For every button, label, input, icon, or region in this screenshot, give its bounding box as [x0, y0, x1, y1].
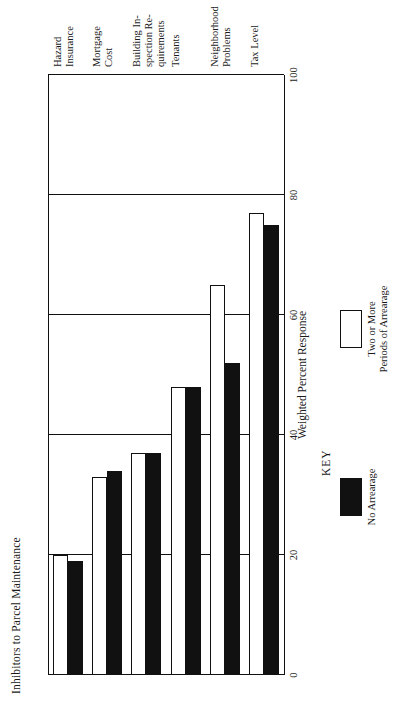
bar — [171, 387, 186, 675]
value-axis-title: Weighted Percent Response — [296, 75, 308, 675]
rotated-figure-stage: Inhibitors to Parcel Maintenance 0204060… — [0, 0, 398, 722]
bar — [107, 471, 122, 675]
chart-legend: KEY No Arrearage Two or More Periods of … — [318, 232, 390, 652]
category-label: Mortgage Cost — [91, 0, 115, 67]
category-label: Hazard Insurance — [52, 0, 76, 67]
category-label: Tax Level — [249, 0, 261, 67]
gridline-100 — [48, 74, 284, 75]
gridline-80 — [48, 194, 284, 195]
bar — [92, 477, 107, 675]
bar — [249, 213, 264, 675]
bar — [68, 561, 83, 675]
bar — [210, 285, 225, 675]
chart-title: Inhibitors to Parcel Maintenance — [10, 537, 22, 694]
category-axis-top-line — [48, 75, 49, 675]
category-label: Building In- spection Re- quirements — [131, 0, 167, 67]
legend-item-no-arrearage: No Arrearage — [340, 402, 378, 592]
bar — [146, 453, 161, 675]
legend-label-two-or-more-periods: Two or More Periods of Arrearage — [366, 234, 390, 424]
bar-chart-figure: Inhibitors to Parcel Maintenance 0204060… — [0, 0, 398, 722]
legend-label-no-arrearage: No Arrearage — [366, 402, 378, 592]
legend-item-two-or-more-periods: Two or More Periods of Arrearage — [340, 234, 390, 424]
bar — [186, 387, 201, 675]
category-label: Tenants — [170, 0, 182, 67]
category-axis-line — [284, 75, 285, 675]
legend-swatch-light — [340, 310, 362, 348]
legend-title: KEY — [320, 449, 332, 476]
category-label: Neighborhood Problems — [209, 0, 233, 67]
bar — [225, 363, 240, 675]
bar — [131, 453, 146, 675]
plot-area: 020406080100 — [48, 75, 284, 675]
bar — [264, 225, 279, 675]
legend-swatch-dark — [340, 478, 362, 516]
bar — [53, 555, 68, 675]
